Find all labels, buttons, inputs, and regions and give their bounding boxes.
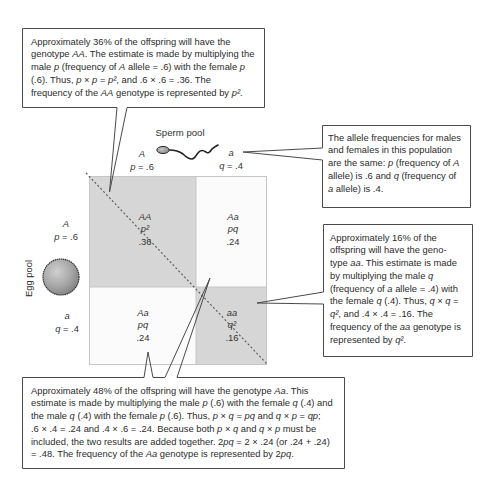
text-line: and females in this population [328, 144, 461, 157]
cell-genotype: aa [227, 307, 237, 318]
sperm-pool-label: Sperm pool [150, 127, 210, 139]
cell-expression: pq [138, 319, 148, 330]
callout-homozygous-recessive-text: Approximately 16% of theoffspring will h… [330, 232, 461, 347]
sperm-allele-A: A p = .6 [122, 147, 162, 173]
allele-symbol: a [64, 310, 69, 321]
text-line: The allele frequencies for males [328, 132, 461, 145]
text-line: Approximately 16% of the [330, 232, 461, 245]
egg-icon [43, 259, 79, 295]
cell-genotype: Aa [137, 307, 148, 318]
cell-frequency: .24 [213, 236, 253, 248]
text-line: Approximately 36% of the offspring will … [31, 36, 254, 49]
text-line: (.6). Thus, p × p = p², and .6 × .6 = .3… [31, 74, 254, 87]
allele-frequency: p = .6 [122, 160, 162, 173]
cell-frequency: .16 [212, 332, 252, 344]
text-line: included, the two results are added toge… [31, 436, 333, 449]
allele-symbol: a [228, 147, 233, 158]
cell-expression: pq [228, 223, 238, 234]
sperm-allele-a: a q = .4 [211, 146, 251, 172]
cell-expression: q² [228, 319, 236, 330]
callout-homozygous-dominant-text: Approximately 36% of the offspring will … [31, 36, 254, 100]
text-line: = .48. The frequency of the Aa genotype … [31, 448, 333, 461]
text-line: the male q (.4) with the female p (.6). … [31, 410, 333, 423]
text-line: a allele) is .4. [328, 183, 461, 196]
allele-frequency: q = .4 [47, 322, 87, 335]
allele-frequency: p = .6 [46, 230, 86, 243]
cell-genotype: Aa [227, 211, 238, 222]
text-line: are the same: p (frequency of A [328, 157, 461, 170]
text-line: q², and .4 × .4 = .16. The [330, 308, 461, 321]
text-line: frequency of the aa genotype is [330, 321, 461, 334]
egg-allele-a: a q = .4 [47, 309, 87, 335]
text-line: .6 × .4 = .24 and .4 × .6 = .24. Because… [31, 423, 333, 436]
allele-symbol: A [139, 148, 145, 159]
text-line: the female q (.4). Thus, q × q = [330, 295, 461, 308]
text-line: by multiplying the male q [330, 270, 461, 283]
egg-allele-A: A p = .6 [46, 217, 86, 243]
callout-heterozygous-text: Approximately 48% of the offspring will … [31, 385, 333, 462]
text-line: allele) is .6 and q (frequency of [328, 170, 461, 183]
allele-frequency: q = .4 [211, 159, 251, 172]
cell-aa: aa q² .16 [212, 307, 252, 344]
egg-pool-label: Egg pool [23, 253, 36, 303]
cell-Aa-bottom-left: Aa pq .24 [123, 307, 163, 344]
text-line: male p (frequency of A allele = .6) with… [31, 61, 254, 74]
text-line: type aa. This estimate is made [330, 257, 461, 270]
text-line: Approximately 48% of the offspring will … [31, 385, 333, 398]
text-line: frequency of the AA genotype is represen… [31, 87, 254, 100]
cell-expression: p² [141, 223, 149, 234]
text-line: represented by q². [330, 334, 461, 347]
cell-genotype: AA [139, 211, 152, 222]
text-line: genotype AA. The estimate is made by mul… [31, 48, 254, 61]
cell-Aa-top-right: Aa pq .24 [213, 211, 253, 248]
cell-frequency: .36 [125, 236, 165, 248]
text-line: offspring will have the geno- [330, 244, 461, 257]
cell-frequency: .24 [123, 332, 163, 344]
text-line: estimate is made by multiplying the male… [31, 397, 333, 410]
callout-allele-frequencies-text: The allele frequencies for malesand fema… [328, 132, 461, 196]
allele-symbol: A [63, 218, 69, 229]
sperm-icon [157, 145, 218, 159]
cell-AA: AA p² .36 [125, 211, 165, 248]
text-line: (frequency of a allele = .4) with [330, 283, 461, 296]
